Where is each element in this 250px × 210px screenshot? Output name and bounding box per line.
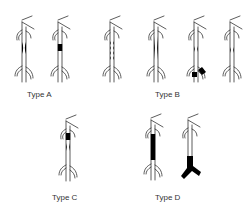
type-b-vessel-1	[103, 16, 122, 82]
type-d-label: Type D	[155, 193, 180, 202]
type-b-vessel-4	[223, 16, 242, 82]
type-a-label: Type A	[27, 90, 51, 99]
type-b-vessel-3	[187, 16, 206, 82]
bifurcation-occlusion-lesion	[181, 156, 201, 179]
type-b-label: Type B	[155, 90, 180, 99]
type-a-vessel-1	[15, 16, 34, 82]
type-c-vessel	[59, 115, 78, 181]
long-occlusion-lesion	[151, 134, 155, 160]
type-b-vessel-2	[147, 16, 166, 82]
occlusion-lesion	[66, 133, 70, 140]
branch-occlusion-lesion	[198, 67, 206, 75]
short-stenosis-lesion	[230, 47, 234, 53]
type-a-vessel-2	[51, 16, 70, 82]
vessel-lesion-diagram	[0, 0, 250, 210]
type-c-label: Type C	[52, 193, 77, 202]
type-d-vessel-1	[144, 114, 163, 180]
occlusion-lesion	[58, 44, 62, 51]
long-stenosis-lesion	[154, 36, 158, 60]
occlusion-lesion	[192, 72, 197, 77]
stenosis-lesion	[194, 46, 195, 52]
stenosis-lesion	[66, 143, 67, 151]
stenosis-lesion	[22, 42, 23, 54]
type-d-vessel-2	[181, 114, 201, 179]
multiple-stenoses-lesion	[110, 41, 114, 60]
